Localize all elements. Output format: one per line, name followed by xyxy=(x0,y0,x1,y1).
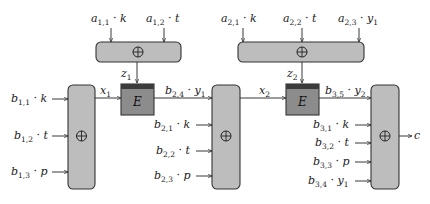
xor-2-input-3: b2,3 · p xyxy=(154,169,191,184)
xor-1-input-1: b1,1 · k xyxy=(11,92,47,107)
encryption-diagram: a1,1 · k a1,2 · t z1 a2,1 · k a2,2 · t a… xyxy=(0,0,430,204)
cipher-1: E b2,4 · y1 xyxy=(121,84,212,115)
xor-1: b1,1 · k b1,2 · t b1,3 · p x1 xyxy=(11,84,121,189)
key-band xyxy=(121,84,154,89)
top-xor-1-input-1: a1,1 · k xyxy=(91,12,127,27)
xor-3: b3,1 · k b3,2 · t b3,3 · p b3,4 · y1 c xyxy=(308,85,420,189)
xor-icon xyxy=(380,131,390,141)
xor-2: b2,1 · k b2,2 · t b2,3 · p x2 xyxy=(154,84,286,189)
top-xor-1-input-2: a1,2 · t xyxy=(146,12,180,27)
xor-3-input-3: b3,3 · p xyxy=(313,155,350,170)
top-xor-2: a2,1 · k a2,2 · t a2,3 · y1 z2 xyxy=(221,12,378,83)
cipher-2-output-label: b3,5 · y2 xyxy=(325,84,366,99)
xor-1-input-3: b1,3 · p xyxy=(11,165,48,180)
top-xor-2-input-2: a2,2 · t xyxy=(283,12,317,27)
cipher-2: E b3,5 · y2 xyxy=(286,84,371,115)
xor-icon xyxy=(133,47,143,57)
xor-1-input-2: b1,2 · t xyxy=(14,129,48,144)
top-xor-1: a1,1 · k a1,2 · t z1 xyxy=(91,12,181,83)
top-xor-2-input-3: a2,3 · y1 xyxy=(338,12,378,27)
cipher-label: E xyxy=(132,95,142,109)
z2-label: z2 xyxy=(286,67,298,82)
cipher-label: E xyxy=(297,95,307,109)
xor-icon xyxy=(221,131,231,141)
xor-2-input-2: b2,2 · t xyxy=(156,144,190,159)
output-c-label: c xyxy=(414,129,420,142)
top-xor-2-input-1: a2,1 · k xyxy=(221,12,257,27)
x1-label: x1 xyxy=(100,84,111,99)
xor-icon xyxy=(297,47,307,57)
xor-3-input-1: b3,1 · k xyxy=(313,118,349,133)
xor-3-input-4: b3,4 · y1 xyxy=(308,174,348,189)
cipher-1-output-label: b2,4 · y1 xyxy=(165,84,205,99)
z1-label: z1 xyxy=(120,67,132,82)
key-band xyxy=(286,84,319,89)
xor-icon xyxy=(77,131,87,141)
xor-3-input-2: b3,2 · t xyxy=(315,136,349,151)
x2-label: x2 xyxy=(259,84,270,99)
xor-2-input-1: b2,1 · k xyxy=(154,118,190,133)
